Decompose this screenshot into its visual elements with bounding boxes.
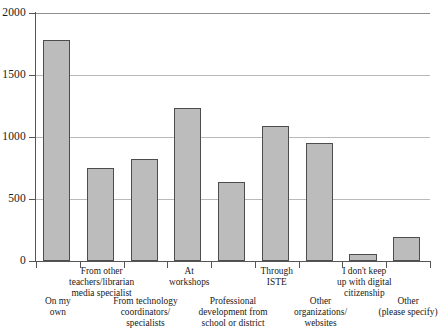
bar — [262, 126, 289, 261]
y-tick-label-1000: 1000 — [0, 131, 26, 143]
bar — [393, 237, 420, 261]
y-tick-label-500: 500 — [0, 193, 26, 205]
x-axis-label: Through ISTE — [234, 266, 320, 288]
y-tick-mark-1500 — [29, 75, 36, 76]
x-tick-mark — [36, 262, 37, 268]
x-axis-label: At workshops — [146, 266, 232, 288]
x-axis-label: Other organizations/ websites — [278, 296, 364, 329]
plot-area — [36, 13, 430, 261]
bar — [174, 108, 201, 261]
x-axis-label: Professional development from school or … — [190, 296, 276, 329]
y-tick-mark-500 — [29, 199, 36, 200]
bar — [87, 168, 114, 261]
bar — [131, 159, 158, 261]
bar — [218, 182, 245, 261]
y-tick-mark-2000 — [29, 13, 36, 14]
x-axis-label: I don't keep up with digital citizenship — [321, 266, 407, 299]
x-axis-label: On my own — [15, 296, 101, 318]
x-tick-mark — [430, 262, 431, 268]
gridline-2000 — [36, 13, 430, 14]
y-tick-label-2000: 2000 — [0, 7, 26, 19]
bar — [43, 40, 70, 261]
x-axis-label: From technology coordinators/ specialist… — [102, 296, 188, 329]
bar — [306, 143, 333, 261]
x-axis-label: From other teachers/librarian media spec… — [59, 266, 145, 299]
y-tick-label-1500: 1500 — [0, 69, 26, 81]
y-tick-mark-1000 — [29, 137, 36, 138]
gridline-1000 — [36, 137, 430, 138]
x-axis-line — [35, 261, 431, 262]
gridline-1500 — [36, 75, 430, 76]
y-tick-label-0: 0 — [0, 255, 26, 267]
y-tick-mark-0 — [29, 261, 36, 262]
bar — [349, 254, 376, 261]
x-axis-label: Other (please specify) — [365, 296, 442, 318]
